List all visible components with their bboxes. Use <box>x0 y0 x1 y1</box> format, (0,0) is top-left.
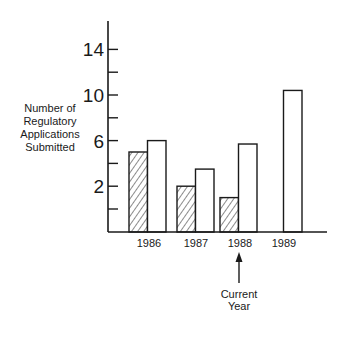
bar-1986-open <box>148 141 167 232</box>
bars <box>129 90 302 232</box>
x-tick-label: 1986 <box>137 237 161 249</box>
y-tick-label: 6 <box>93 131 104 152</box>
bar-1989-open <box>284 90 303 232</box>
y-axis-label: Number ofRegulatoryApplicationsSubmitted <box>20 102 80 153</box>
annotation-text: Current <box>221 288 258 300</box>
y-tick-label: 14 <box>83 39 105 60</box>
x-tick-label: 1989 <box>272 237 296 249</box>
x-tick-label: 1987 <box>184 237 208 249</box>
bar-1988-open <box>239 144 258 232</box>
bar-1988-hatched <box>220 198 239 232</box>
x-axis: 1986198719881989 <box>108 232 327 249</box>
y-tick-label: 2 <box>93 176 104 197</box>
y-axis-label-line: Regulatory <box>23 115 77 127</box>
y-axis: 261014 <box>83 21 118 232</box>
x-tick-label: 1988 <box>228 237 252 249</box>
bar-1987-open <box>196 169 215 232</box>
bar-1986-hatched <box>129 152 148 232</box>
y-tick-label: 10 <box>83 85 104 106</box>
arrowhead-icon <box>236 252 243 262</box>
y-axis-label-line: Applications <box>20 128 80 140</box>
y-axis-label-line: Submitted <box>25 141 75 153</box>
bar-1987-hatched <box>177 186 196 232</box>
y-axis-label-line: Number of <box>24 102 76 114</box>
bar-chart: Number ofRegulatoryApplicationsSubmitted… <box>0 0 342 342</box>
current-year-annotation: CurrentYear <box>221 252 258 312</box>
annotation-text: Year <box>228 300 251 312</box>
